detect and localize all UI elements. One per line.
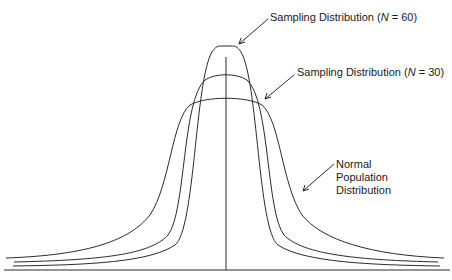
arrow-normal-line — [303, 164, 334, 191]
label-normal-line3: Distribution — [336, 184, 391, 197]
arrow-n30-line — [265, 75, 294, 99]
label-n60-var: N — [381, 11, 389, 23]
label-normal-population: Normal Population Distribution — [336, 158, 391, 197]
label-n30-suffix: = 30) — [416, 66, 444, 78]
distribution-diagram — [0, 0, 452, 280]
label-sampling-n30: Sampling Distribution (N = 30) — [297, 66, 444, 79]
label-n30-prefix: Sampling Distribution ( — [297, 66, 408, 78]
arrow-n60-line — [239, 19, 268, 44]
label-n60-suffix: = 60) — [389, 11, 417, 23]
label-n60-prefix: Sampling Distribution ( — [270, 11, 381, 23]
label-normal-line2: Population — [336, 171, 391, 184]
label-sampling-n60: Sampling Distribution (N = 60) — [270, 11, 417, 24]
label-n30-var: N — [408, 66, 416, 78]
label-normal-line1: Normal — [336, 158, 391, 171]
